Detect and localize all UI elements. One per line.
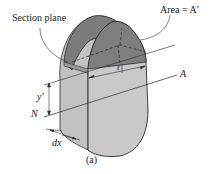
section-plane-label: Section plane bbox=[12, 13, 66, 23]
y-prime-dimension bbox=[48, 83, 51, 115]
figure-caption: (a) bbox=[86, 155, 97, 165]
area-label: Area = A′ bbox=[160, 5, 199, 15]
dx-label: dx bbox=[52, 138, 61, 148]
axis-a-label: A bbox=[180, 69, 186, 79]
beam-element-diagram bbox=[0, 0, 212, 174]
area-leader bbox=[140, 15, 170, 40]
t-label: t bbox=[117, 63, 120, 72]
axis-n-label: N bbox=[31, 109, 38, 119]
y-prime-label: y′ bbox=[37, 92, 44, 102]
